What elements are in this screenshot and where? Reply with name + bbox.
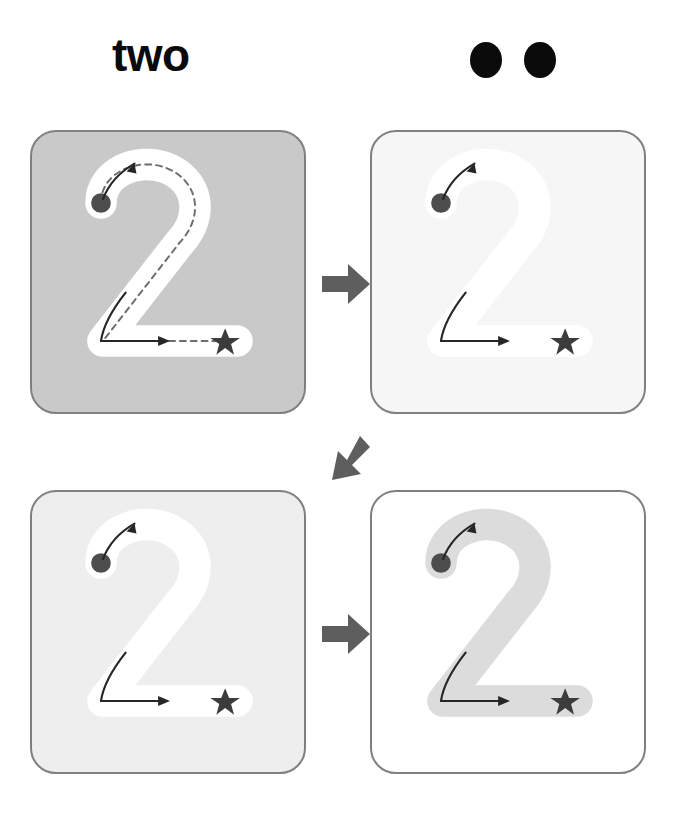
count-dots-group	[470, 42, 556, 78]
start-dot	[431, 193, 451, 213]
numeral-stroke	[101, 164, 237, 341]
flow-arrow-right-icon-bottom	[318, 608, 374, 660]
flow-arrow-down-left-icon	[314, 430, 374, 486]
number-word-label: two	[112, 32, 190, 78]
start-dot	[91, 193, 111, 213]
tracing-card-step-1[interactable]	[30, 130, 306, 414]
tracing-card-step-3[interactable]	[30, 490, 306, 774]
tracing-card-step-4[interactable]	[370, 490, 646, 774]
count-dot-2	[524, 42, 556, 78]
tracing-card-step-2[interactable]	[370, 130, 646, 414]
count-dot-1	[470, 42, 502, 78]
worksheet-header: two	[0, 0, 688, 108]
numeral-stroke	[101, 524, 237, 701]
numeral-stroke	[441, 164, 577, 341]
start-dot	[431, 553, 451, 573]
start-dot	[91, 553, 111, 573]
numeral-stroke	[441, 524, 577, 701]
flow-arrow-right-icon-top	[318, 258, 374, 310]
